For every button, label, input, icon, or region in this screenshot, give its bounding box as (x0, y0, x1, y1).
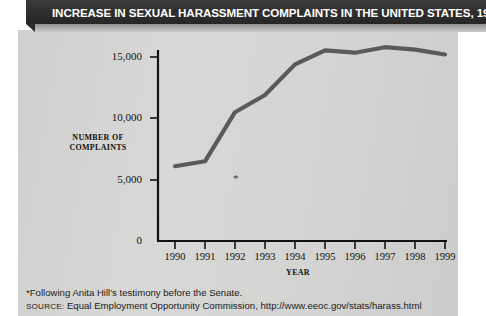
y-tick-label-0: 0 (88, 234, 142, 246)
data-series-line (175, 47, 445, 166)
y-tick-label-15000: 15,000 (88, 50, 142, 62)
y-axis-title-line2: COMPLAINTS (52, 143, 144, 153)
x-tick-label-1992: 1992 (218, 251, 252, 262)
anita-hill-asterisk-annotation: * (233, 172, 239, 184)
figure-container: INCREASE IN SEXUAL HARASSMENT COMPLAINTS… (0, 0, 486, 316)
y-tick-label-10000: 10,000 (88, 111, 142, 123)
y-tick-label-5000: 5,000 (88, 173, 142, 185)
x-tick-label-1998: 1998 (398, 251, 432, 262)
footnote-text: *Following Anita Hill's testimony before… (26, 286, 422, 299)
chart-footnotes: *Following Anita Hill's testimony before… (26, 286, 422, 313)
source-line: SOURCE: Equal Employment Opportunity Com… (26, 299, 422, 313)
x-tick-label-1996: 1996 (338, 251, 372, 262)
x-tick-label-1994: 1994 (278, 251, 312, 262)
x-tick-label-1999: 1999 (428, 251, 462, 262)
x-tick-label-1991: 1991 (188, 251, 222, 262)
x-tick-label-1990: 1990 (158, 251, 192, 262)
x-tick-label-1997: 1997 (368, 251, 402, 262)
x-tick-label-1993: 1993 (248, 251, 282, 262)
y-axis-title: NUMBER OF COMPLAINTS (52, 133, 144, 153)
x-tick-label-1995: 1995 (308, 251, 342, 262)
y-axis-title-line1: NUMBER OF (52, 133, 144, 143)
source-value: Equal Employment Opportunity Commission,… (64, 300, 421, 311)
x-axis-title: YEAR (268, 268, 328, 277)
source-label: SOURCE: (26, 302, 64, 311)
chart-plot-area: * (0, 0, 486, 316)
